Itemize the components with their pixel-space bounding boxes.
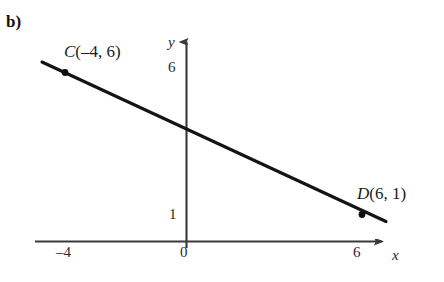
line-cd	[42, 62, 386, 222]
point-marker-d	[359, 211, 366, 218]
x-tick-label-neg4: –4	[56, 245, 71, 260]
x-axis-label: x	[392, 248, 399, 263]
point-c-letter: C	[64, 42, 75, 61]
point-label-d: D(6, 1)	[357, 185, 406, 202]
point-d-letter: D	[357, 184, 369, 203]
point-d-x-value: 6,	[375, 184, 388, 203]
origin-label: 0	[180, 245, 188, 260]
point-marker-c	[62, 69, 69, 76]
y-tick-label-6: 6	[168, 60, 176, 75]
point-c-y-value: 6	[107, 42, 116, 61]
y-tick-label-1: 1	[169, 207, 177, 222]
point-d-close-paren: )	[400, 184, 406, 203]
x-tick-label-6: 6	[353, 245, 361, 260]
point-c-x-value: –4,	[81, 42, 102, 61]
point-c-close-paren: )	[115, 42, 121, 61]
point-label-c: C(–4, 6)	[64, 43, 121, 60]
y-axis-label: y	[168, 35, 175, 50]
graph-figure: b) y x 6 1 0 –4 6 C(–4, 6) D(6, 1)	[0, 0, 444, 282]
